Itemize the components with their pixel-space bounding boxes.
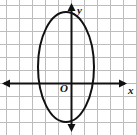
y-axis-label: y (75, 4, 82, 16)
coordinate-plot-svg: y x O (0, 0, 137, 135)
x-axis-label: x (127, 84, 134, 96)
figure-background (0, 0, 137, 135)
origin-label: O (60, 82, 68, 94)
ellipse-figure: y x O (0, 0, 137, 135)
